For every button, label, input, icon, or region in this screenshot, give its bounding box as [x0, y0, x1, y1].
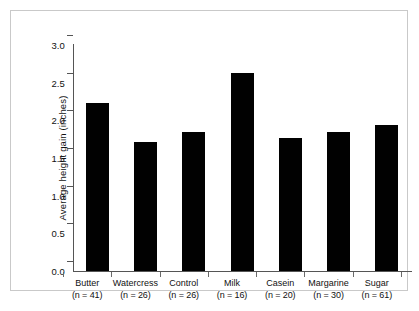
- x-axis-tick: [304, 272, 305, 277]
- category-name: Butter: [75, 278, 99, 288]
- category-sample-size: (n = 41): [63, 290, 111, 302]
- y-axis-tick: [67, 148, 73, 149]
- category-sample-size: (n = 61): [353, 290, 401, 302]
- x-axis-tick: [353, 272, 354, 277]
- category-name: Control: [169, 278, 198, 288]
- y-axis-tick-label: 1.5: [35, 153, 65, 164]
- category-name: Watercress: [113, 278, 158, 288]
- category-name: Sugar: [365, 278, 389, 288]
- y-axis-tick: [67, 261, 73, 262]
- x-axis-category-label: Margarine(n = 30): [304, 278, 352, 301]
- x-axis-category-label: Casein(n = 20): [256, 278, 304, 301]
- bar: [327, 132, 350, 271]
- x-axis-category-label: Butter(n = 41): [63, 278, 111, 301]
- x-axis-tick: [256, 272, 257, 277]
- bar: [86, 103, 109, 271]
- category-sample-size: (n = 26): [160, 290, 208, 302]
- y-axis-tick: [67, 223, 73, 224]
- y-axis-tick-label: 3.0: [35, 40, 65, 51]
- bar: [231, 73, 254, 271]
- bar: [134, 142, 157, 271]
- x-axis-tick: [401, 272, 402, 277]
- y-axis-tick: [67, 186, 73, 187]
- y-axis-tick: [67, 73, 73, 74]
- x-axis-line: [73, 271, 412, 272]
- category-sample-size: (n = 16): [208, 290, 256, 302]
- y-axis-tick-label: 2.5: [35, 77, 65, 88]
- figure-frame: Average height gain (inches) 0.00.51.01.…: [10, 10, 408, 291]
- y-axis-tick-label: 1.0: [35, 190, 65, 201]
- category-sample-size: (n = 20): [256, 290, 304, 302]
- y-axis-tick-label: 0.5: [35, 228, 65, 239]
- y-axis-tick: [67, 110, 73, 111]
- x-axis-category-label: Sugar(n = 61): [353, 278, 401, 301]
- category-name: Margarine: [308, 278, 349, 288]
- category-name: Milk: [224, 278, 240, 288]
- x-axis-category-label: Control(n = 26): [160, 278, 208, 301]
- y-axis-tick-labels: 0.00.51.01.52.02.53.0: [29, 11, 65, 311]
- x-axis-tick: [208, 272, 209, 277]
- x-axis-tick: [160, 272, 161, 277]
- y-axis-tick-label: 0.0: [35, 266, 65, 277]
- category-name: Casein: [266, 278, 294, 288]
- x-axis-category-label: Milk(n = 16): [208, 278, 256, 301]
- y-axis-tick-label: 2.0: [35, 115, 65, 126]
- bar: [375, 125, 398, 271]
- bar: [182, 132, 205, 271]
- y-axis-tick: [67, 35, 73, 36]
- bar: [279, 138, 302, 271]
- category-sample-size: (n = 30): [304, 290, 352, 302]
- plot-area: [73, 45, 411, 271]
- x-axis-category-label: Watercress(n = 26): [111, 278, 159, 301]
- category-sample-size: (n = 26): [111, 290, 159, 302]
- x-axis-tick: [111, 272, 112, 277]
- x-axis-tick: [63, 272, 64, 277]
